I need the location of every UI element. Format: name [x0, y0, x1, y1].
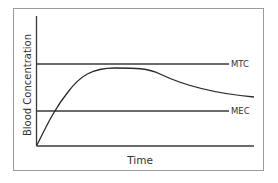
- concentration-curve: [37, 68, 254, 145]
- mtc-label: MTC: [231, 59, 249, 69]
- mec-label: MEC: [231, 106, 250, 116]
- x-axis-label: Time: [126, 154, 153, 166]
- y-axis-label: Blood Concentration: [22, 34, 33, 136]
- chart: MTC MEC Time Blood Concentration: [0, 0, 278, 183]
